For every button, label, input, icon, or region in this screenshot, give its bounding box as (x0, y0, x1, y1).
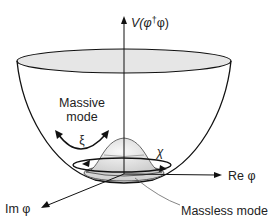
im-axis-label: Im φ (5, 202, 30, 216)
massless-mode-label: Massless mode (181, 204, 268, 218)
massive-mode-label-line2: mode (66, 110, 97, 124)
potential-axis-label: V(φ†φ) (131, 15, 169, 30)
im-axis (48, 174, 124, 205)
chi-label: χ (156, 145, 164, 159)
mexican-hat-diagram: V(φ†φ) Massive mode ξ χ Re φ Im φ Massle… (0, 0, 278, 223)
v-axis-arrow-icon (121, 16, 127, 24)
xi-label: ξ (79, 133, 85, 147)
im-axis-arrow-icon (41, 201, 50, 208)
massive-mode-label-line1: Massive (59, 96, 105, 110)
re-axis-label: Re φ (228, 169, 256, 183)
re-axis-arrow-icon (214, 172, 222, 178)
